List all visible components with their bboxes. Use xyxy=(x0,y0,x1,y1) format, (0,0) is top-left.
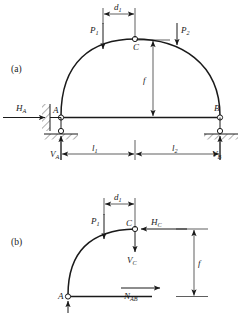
panel-b-group: (b) A C P1 HC VC NAB xyxy=(11,192,208,313)
support-roller-a xyxy=(58,128,63,133)
label-ha: HA xyxy=(15,103,27,114)
panel-a-tag: (a) xyxy=(11,64,22,75)
hinge-a-panel-b xyxy=(65,294,70,299)
engineering-diagram-svg: (a) C A B HA xyxy=(0,0,243,313)
label-l1: l1 xyxy=(92,143,98,154)
label-f: f xyxy=(143,75,147,85)
figure-container: (a) C A B HA xyxy=(0,0,243,313)
label-p1: P1 xyxy=(89,25,99,36)
label-point-a-panel-b: A xyxy=(57,291,64,301)
label-l2: l2 xyxy=(172,143,178,154)
label-point-c-panel-b: C xyxy=(126,218,133,228)
label-d1: d1 xyxy=(114,2,122,13)
label-p1-panel-b: P1 xyxy=(90,216,100,227)
label-vc: VC xyxy=(127,255,138,266)
panel-b-tag: (b) xyxy=(11,237,22,248)
label-hc: HC xyxy=(150,217,163,228)
panel-a-group: (a) C A B HA xyxy=(3,2,238,160)
label-point-c: C xyxy=(133,42,140,52)
support-roller-b xyxy=(217,128,222,133)
arch-half-curve xyxy=(68,229,135,295)
label-p2: P2 xyxy=(180,25,190,36)
arch-curve xyxy=(61,39,220,116)
label-f-panel-b: f xyxy=(198,258,202,268)
label-va: VA xyxy=(50,149,60,160)
label-point-a: A xyxy=(52,105,59,115)
label-nab: NAB xyxy=(123,291,138,302)
label-point-b: B xyxy=(214,103,220,113)
label-d1-panel-b: d1 xyxy=(114,192,122,203)
ground-hatching-b xyxy=(204,134,238,140)
